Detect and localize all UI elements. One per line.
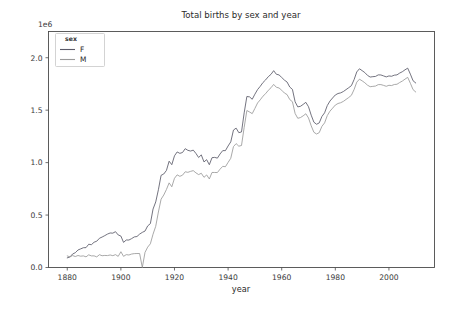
- x-tick-label: 1960: [272, 273, 291, 282]
- chart-title: Total births by sex and year: [181, 10, 301, 20]
- legend-title: sex: [65, 35, 77, 42]
- legend-label-f: F: [80, 45, 84, 54]
- legend[interactable]: sex F M: [56, 34, 105, 67]
- y-axis-offset-label: 1e6: [38, 20, 53, 29]
- x-tick-label: 1980: [326, 273, 345, 282]
- x-tick-label: 1880: [58, 273, 77, 282]
- y-tick-label: 0.0: [30, 263, 42, 272]
- x-axis-title: year: [232, 284, 251, 294]
- y-tick-label: 1.5: [30, 106, 42, 115]
- x-tick-label: 1900: [111, 273, 130, 282]
- chart-canvas: Total births by sex and year 1e6 0.00.51…: [0, 0, 455, 311]
- x-tick-label: 1920: [165, 273, 184, 282]
- y-tick-label: 1.0: [30, 158, 42, 167]
- matplotlib-figure: Total births by sex and year 1e6 0.00.51…: [0, 0, 455, 311]
- y-tick-label: 0.5: [30, 211, 42, 220]
- x-tick-label: 2000: [379, 273, 398, 282]
- x-tick-label: 1940: [218, 273, 237, 282]
- legend-label-m: M: [80, 55, 86, 64]
- y-tick-label: 2.0: [30, 54, 42, 63]
